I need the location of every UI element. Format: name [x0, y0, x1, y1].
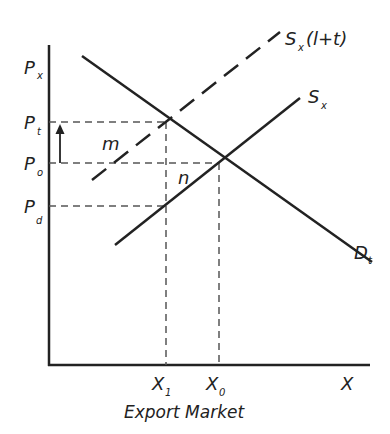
- supply-label: S: [308, 86, 319, 107]
- supply-tariff-label: S: [285, 28, 296, 49]
- tick-label-pt-sub: t: [37, 126, 42, 137]
- area-label-m: m: [102, 133, 120, 154]
- supply-curve: [115, 98, 300, 245]
- supply-tariff-label-sub: x: [297, 42, 304, 53]
- tick-label-x1: X: [151, 373, 165, 394]
- tick-label-pd-sub: d: [36, 215, 43, 226]
- tick-label-x0-sub: 0: [219, 387, 225, 398]
- demand-curve: [82, 56, 372, 262]
- demand-label: D: [354, 242, 368, 263]
- y-axis-label-sub: x: [36, 70, 43, 81]
- tick-label-pt: P: [24, 112, 35, 133]
- tick-label-x1-sub: 1: [165, 387, 171, 398]
- area-label-n: n: [178, 167, 189, 188]
- demand-label-sub: t: [368, 255, 373, 266]
- tick-label-x0: X: [205, 373, 219, 394]
- x-axis-label: X: [340, 373, 354, 394]
- diagram-title: Export Market: [124, 402, 245, 422]
- supply-label-sub: x: [320, 100, 327, 111]
- y-axis-label: P: [24, 57, 35, 78]
- tick-label-po: P: [24, 153, 35, 174]
- price-increase-arrow-icon: [56, 124, 65, 163]
- tick-label-po-sub: o: [37, 167, 43, 178]
- export-market-diagram: P x P t P o P d X 1 X 0 X m n S x (l+t) …: [0, 0, 390, 434]
- supply-tariff-label-suffix: (l+t): [306, 28, 347, 49]
- supply-tariff-curve: [92, 32, 280, 180]
- tick-label-pd: P: [24, 196, 35, 217]
